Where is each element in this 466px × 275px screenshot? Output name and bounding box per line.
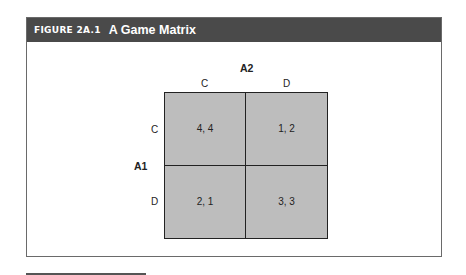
figure-header: FIGURE 2A.1 A Game Matrix — [27, 18, 441, 42]
row-strategy-d: D — [151, 196, 158, 207]
column-strategy-d: D — [283, 78, 290, 89]
figure-title: A Game Matrix — [109, 23, 196, 37]
payoff-cell-dd: 3, 3 — [246, 166, 327, 239]
row-player-label: A1 — [134, 160, 147, 172]
payoff-cell-dc: 2, 1 — [165, 166, 246, 239]
game-matrix: 4, 4 1, 2 2, 1 3, 3 — [164, 92, 328, 239]
row-strategy-c: C — [151, 124, 158, 135]
column-strategy-c: C — [201, 78, 208, 89]
column-player-label: A2 — [240, 62, 253, 74]
figure-number: FIGURE 2A.1 — [34, 25, 101, 35]
payoff-cell-cc: 4, 4 — [165, 93, 246, 166]
payoff-cell-cd: 1, 2 — [246, 93, 327, 166]
